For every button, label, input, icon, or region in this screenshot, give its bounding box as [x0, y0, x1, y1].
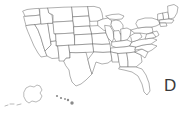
us-outline-map-svg	[0, 0, 184, 113]
state-south-dakota	[73, 16, 90, 27]
state-nebraska	[74, 26, 92, 35]
state-ohio	[121, 28, 131, 41]
state-massachusetts	[160, 19, 174, 23]
inset-alaska-aleutians	[5, 104, 21, 106]
inset-hawaii-molokai	[64, 98, 66, 100]
inset-alaska	[24, 85, 42, 103]
alaska-inset-group	[5, 85, 42, 106]
hawaii-inset-group	[56, 95, 74, 105]
overlay-text-label: D	[164, 77, 176, 94]
contiguous-states-group	[23, 5, 178, 96]
state-pennsylvania	[131, 27, 153, 34]
state-louisiana	[88, 52, 112, 74]
inset-hawaii-oahu	[60, 97, 62, 99]
inset-hawaii-kauai	[56, 95, 58, 97]
state-north-dakota	[72, 7, 89, 17]
inset-hawaii-maui	[67, 99, 69, 101]
state-minnesota	[88, 6, 103, 21]
state-wyoming	[53, 21, 74, 34]
state-oklahoma	[69, 44, 94, 53]
state-alabama	[118, 53, 128, 67]
inset-hawaii-bigisland	[70, 101, 73, 104]
state-maine	[168, 5, 178, 20]
state-kansas	[75, 34, 93, 45]
state-florida	[119, 67, 150, 95]
state-connecticut	[160, 23, 167, 27]
us-map-figure: D	[0, 0, 184, 113]
state-colorado	[56, 33, 75, 46]
state-arkansas	[93, 44, 111, 52]
state-new-york	[136, 18, 160, 28]
